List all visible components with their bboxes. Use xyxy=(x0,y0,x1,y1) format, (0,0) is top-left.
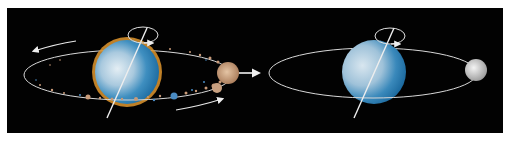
impact-diagram xyxy=(0,0,511,141)
debris-disk-panel xyxy=(24,27,239,118)
moon xyxy=(465,59,487,81)
accretion-clump xyxy=(217,62,239,84)
moon-formed-panel xyxy=(269,28,487,118)
orbit-arrow-top-left-icon xyxy=(34,41,76,51)
orbit-arrow-bottom-right-icon xyxy=(176,99,222,110)
spin-ellipse xyxy=(128,27,158,43)
accretion-clump-small xyxy=(212,83,222,93)
